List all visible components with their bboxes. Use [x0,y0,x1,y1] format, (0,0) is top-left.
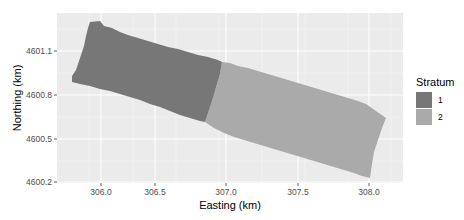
chart: 4601.1 4600.8 4600.5 4600.2 306.0 306.5 … [0,0,464,220]
y-axis-title: Northing (km) [11,65,23,132]
y-axis-ticks [54,51,57,182]
x-tick-label: 308.0 [358,187,380,197]
x-axis-title: Easting (km) [199,199,261,211]
x-tick-label: 306.5 [144,187,166,197]
x-tick-label: 307.5 [287,187,309,197]
legend-key-1 [416,92,432,108]
legend-key-2 [416,109,432,125]
x-axis-ticks [101,183,369,186]
y-tick-label: 4600.8 [26,90,52,100]
x-tick-label: 306.0 [90,187,112,197]
legend-title: Stratum [416,76,455,88]
y-tick-label: 4600.2 [26,177,52,187]
legend-label-2: 2 [438,112,443,122]
x-tick-label: 307.0 [215,187,237,197]
y-tick-label: 4600.5 [26,134,52,144]
legend-label-1: 1 [438,95,443,105]
y-tick-label: 4601.1 [26,46,52,56]
